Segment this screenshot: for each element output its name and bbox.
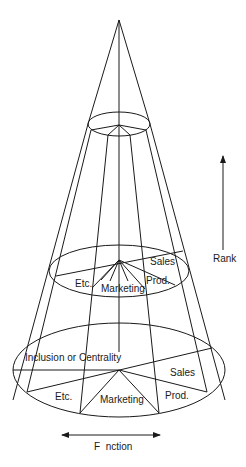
cone-apex bbox=[88, 20, 150, 125]
base-label-inclusion: Inclusion or Centrality bbox=[25, 352, 121, 363]
rank-axis: Rank bbox=[213, 156, 237, 264]
cone-diagram: Sales Prod. Marketing Etc. Inclusion or … bbox=[0, 0, 246, 467]
base-label-sales: Sales bbox=[170, 367, 195, 378]
middle-label-prod: Prod. bbox=[146, 275, 170, 286]
function-label: F nction bbox=[94, 441, 132, 452]
base-label-prod: Prod. bbox=[165, 390, 189, 401]
middle-label-marketing: Marketing bbox=[101, 283, 145, 294]
function-axis: F nction bbox=[62, 435, 160, 452]
base-label-marketing: Marketing bbox=[100, 394, 144, 405]
middle-label-etc: Etc. bbox=[75, 278, 92, 289]
middle-label-sales: Sales bbox=[150, 256, 175, 267]
base-label-etc: Etc. bbox=[55, 391, 72, 402]
rank-label: Rank bbox=[213, 253, 237, 264]
